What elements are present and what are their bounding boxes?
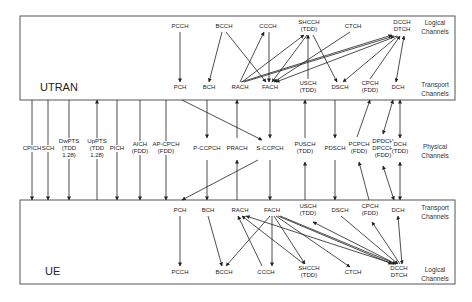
- ue-logical-dcch-label: DCCHDTCH: [390, 265, 407, 279]
- ue-logical-shcch-label: SHCCH(TDD): [298, 265, 319, 279]
- physical-pich-label: PICH: [110, 145, 124, 152]
- physical-prach-label: PRACH: [226, 145, 247, 152]
- ue-logical-ccch-label: CCCH: [257, 269, 274, 276]
- ue-transport-pch-label: PCH: [174, 207, 187, 214]
- channel-mapping-diagram: UTRAN UE Logical Channels Transport Chan…: [0, 0, 472, 302]
- utran-logical-shcch-label: SHCCH(TDD): [298, 19, 319, 33]
- utran-transport-usch-label: USCH(TDD): [299, 80, 316, 94]
- ue-transport-fach-label: FACH: [264, 207, 280, 214]
- utran-transport-dch-label: DCH: [392, 84, 405, 91]
- utran-transport-dsch-label: DSCH: [331, 84, 348, 91]
- utran-title: UTRAN: [40, 81, 78, 93]
- ue-logical-pcch-label: PCCH: [171, 269, 188, 276]
- ue-transport-cpch-label: CPCH(FDD): [361, 203, 378, 217]
- utran-transport-channels-label: Transport Channels: [421, 80, 449, 98]
- ue-transport-bch-label: BCH: [202, 207, 215, 214]
- ue-transport-rach-label: RACH: [231, 207, 248, 214]
- ue-mapping-arrows: [180, 216, 402, 267]
- utran-transport-pch-label: PCH: [174, 84, 187, 91]
- physical-pccpch-label: P-CCPCH: [193, 145, 220, 152]
- utran-transport-bch-label: BCH: [203, 84, 216, 91]
- utran-transport-rach-label: RACH: [231, 84, 248, 91]
- ue-transport-usch-label: USCH(TDD): [299, 203, 316, 217]
- ue-logical-channels-label: Logical Channels: [421, 265, 448, 283]
- ue-logical-bcch-label: BCCH: [215, 269, 232, 276]
- physical-sch-label: SCH: [42, 145, 55, 152]
- ue-title: UE: [45, 265, 60, 277]
- physical-sccpch-label: S-CCPCH: [256, 145, 283, 152]
- utran-logical-channels-label: Logical Channels: [421, 18, 448, 36]
- physical-aich-label: AICH(FDD): [132, 141, 148, 155]
- physical-dwpts-label: DwPTS(TDD1.28): [59, 138, 79, 159]
- physical-cpich-label: CPICH: [23, 145, 42, 152]
- physical-pusch-label: PUSCH(TDD): [294, 141, 315, 155]
- ue-logical-ctch-label: CTCH: [345, 269, 362, 276]
- utran-logical-pcch-label: PCCH: [171, 23, 188, 30]
- ue-transport-channels-label: Transport Channels: [421, 203, 449, 221]
- physical-pdsch-label: PDSCH: [324, 145, 345, 152]
- utran-logical-ctch-label: CTCH: [345, 23, 362, 30]
- physical-uppts-label: UpPTS(TDD1.28): [87, 138, 106, 159]
- physical-dch_tdd-label: DCH(TDD): [392, 141, 408, 155]
- utran-mapping-arrows: [180, 32, 404, 82]
- utran-logical-ccch-label: CCCH: [259, 23, 276, 30]
- utran-logical-dcch-label: DCCHDTCH: [393, 19, 410, 33]
- ue-transport-dsch-label: DSCH: [331, 207, 348, 214]
- physical-apcpch-label: AP-CPCH(FDD): [152, 141, 179, 155]
- physical-dpdch-label: DPDCHDPCCH(FDD): [372, 138, 393, 159]
- physical-pcpch-label: PCPCH(FDD): [348, 141, 369, 155]
- utran-transport-cpch-label: CPCH(FDD): [361, 80, 378, 94]
- ue-transport-dch-label: DCH: [392, 207, 405, 214]
- physical-channels-label: Physical Channels: [421, 142, 448, 160]
- utran-transport-fach-label: FACH: [262, 84, 278, 91]
- utran-logical-bcch-label: BCCH: [215, 23, 232, 30]
